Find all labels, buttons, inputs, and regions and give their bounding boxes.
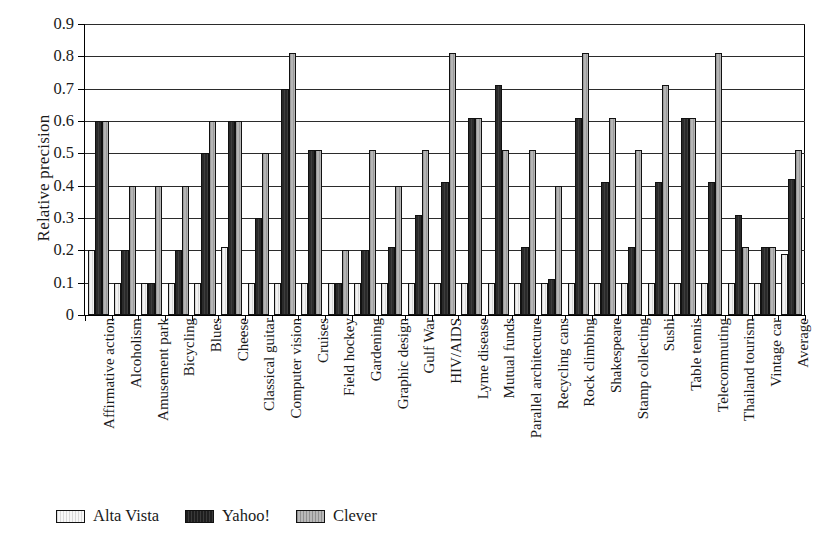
y-axis-tick-label: 0 [66,305,74,325]
bar [568,283,575,315]
x-axis-label: Table tennis [689,318,704,391]
bar [461,283,468,315]
bar [628,247,635,315]
bar [635,150,642,315]
x-axis-labels: Affirmative actionAlcoholismAmusement pa… [84,318,804,468]
bar-group [325,24,352,315]
bar [648,283,655,315]
bar [209,121,216,315]
bar [795,150,802,315]
x-axis-label: Amusement park [156,318,171,421]
bar [281,89,288,315]
x-axis-label: Shakespeare [609,318,624,393]
x-axis-label: Gardening [369,318,384,381]
bar [228,121,235,315]
y-axis-tick [78,89,85,90]
legend-item: Clever [296,506,377,526]
bar [422,150,429,315]
bar [514,283,521,315]
y-axis-tick-label: 0.9 [53,14,74,34]
bar [681,118,688,315]
x-axis-label: Thailand tourism [742,318,757,421]
bar-group [298,24,325,315]
bar [201,153,208,315]
bar [769,247,776,315]
bar-group [565,24,592,315]
bar [529,150,536,315]
x-axis-label: Rock climbing [582,318,597,407]
bar [388,247,395,315]
bar [674,283,681,315]
bar [274,283,281,315]
bar [434,283,441,315]
y-axis-tick [78,56,85,57]
y-axis-tick [78,121,85,122]
bar [521,247,528,315]
bar [555,186,562,315]
y-axis-tick-label: 0.3 [53,208,74,228]
bar [335,283,342,315]
bar [441,182,448,315]
x-axis-label: Field hockey [342,318,357,396]
y-axis-tick [78,186,85,187]
bar [88,250,95,315]
bar [788,179,795,315]
y-axis-tick [78,250,85,251]
bar [601,182,608,315]
bar [582,53,589,315]
bar [621,283,628,315]
bar-group [378,24,405,315]
bar [315,150,322,315]
bar [114,283,121,315]
bar [541,283,548,315]
x-axis-label: Alcoholism [129,318,144,388]
y-axis-tick-label: 0.8 [53,46,74,66]
bar [468,118,475,315]
y-axis-tick-label: 0.1 [53,272,74,292]
bar [328,283,335,315]
y-axis-title: Relative precision [34,38,54,318]
bar [141,283,148,315]
bar [495,85,502,315]
bar [361,250,368,315]
x-axis-label: HIV/AIDS [449,318,464,384]
x-axis-label: Stamp collecting [636,318,651,419]
x-axis-label: Mutual funds [502,318,517,398]
x-axis-label: Average [796,318,811,368]
y-axis-tick-label: 0.6 [53,111,74,131]
bar [575,118,582,315]
bar-group [85,24,112,315]
x-axis-label: Recycling cans [556,318,571,409]
bar [129,186,136,315]
x-axis-label: Affirmative action [102,318,117,429]
bar [262,153,269,315]
bar [761,247,768,315]
y-axis-tick [78,153,85,154]
bar-group [618,24,645,315]
bar [415,215,422,315]
plot-inner: 00.10.20.30.40.50.60.70.80.9 [85,24,805,315]
x-axis-label: Lyme disease [476,318,491,399]
legend-swatch-icon [185,510,214,523]
bar-group [512,24,539,315]
bar [221,247,228,315]
bar [701,283,708,315]
x-axis-label: Parallel architecture [529,318,544,438]
bar [408,283,415,315]
bar [689,118,696,315]
bar-group [592,24,619,315]
x-axis-label: Computer vision [289,318,304,418]
bar [548,279,555,315]
bar [708,182,715,315]
bar [735,215,742,315]
x-axis-label: Classical guitar [262,318,277,411]
bar [754,283,761,315]
bar [155,186,162,315]
legend-item: Yahoo! [185,506,270,526]
bar-group [725,24,752,315]
bar-group [432,24,459,315]
bar [342,250,349,315]
bar-group [405,24,432,315]
bar [301,283,308,315]
bar [95,121,102,315]
